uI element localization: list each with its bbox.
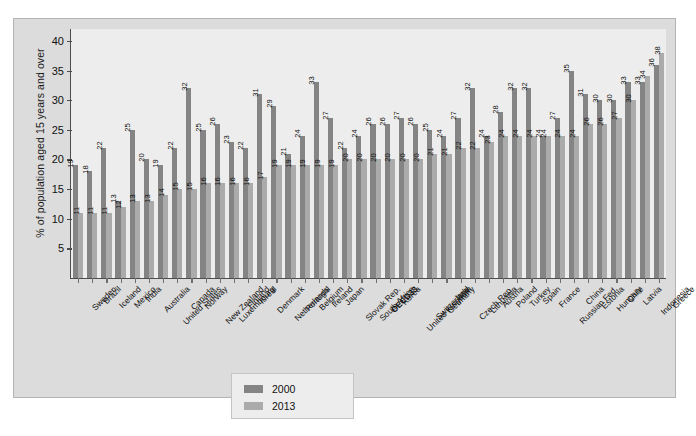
bar-group: 2215 — [170, 148, 184, 278]
bar-value-label: 19 — [328, 159, 336, 167]
bar-group: 1811 — [85, 171, 99, 278]
bar-value-label: 22 — [96, 141, 104, 149]
x-tick — [390, 278, 391, 283]
y-tick-label: 40 — [52, 35, 71, 47]
x-tick — [616, 278, 617, 283]
bar-group: 2616 — [213, 124, 227, 278]
legend-swatch-2013 — [244, 402, 263, 410]
x-tick — [560, 278, 561, 283]
bar-value-label: 30 — [626, 94, 634, 102]
bar-value-label: 19 — [271, 159, 279, 167]
bar-value-label: 13 — [144, 195, 152, 203]
bar-value-label: 25 — [422, 124, 430, 132]
bar-2013: 24 — [531, 136, 536, 278]
legend-item-2000: 2000 — [244, 380, 353, 397]
bar-group: 3027 — [609, 100, 623, 278]
bar-group: 1914 — [156, 165, 170, 278]
bar-group: 2423 — [482, 136, 496, 278]
bar-group: 2919 — [269, 106, 283, 278]
bar-value-label: 22 — [470, 141, 478, 149]
bar-value-label: 30 — [606, 94, 614, 102]
bar-value-label: 11 — [101, 207, 109, 215]
bar-group: 2516 — [199, 130, 213, 278]
bar-value-label: 33 — [620, 76, 628, 84]
bar-2013: 11 — [78, 213, 83, 278]
x-tick — [206, 278, 207, 283]
x-tick — [489, 278, 490, 283]
bar-value-label: 13 — [130, 195, 138, 203]
bar-group: 2013 — [142, 159, 156, 278]
y-tick-label: 10 — [52, 213, 71, 225]
bar-value-label: 31 — [578, 88, 586, 96]
x-tick — [333, 278, 334, 283]
bar-group: 3026 — [595, 100, 609, 278]
bar-2013: 26 — [602, 124, 607, 278]
bar-value-label: 36 — [649, 58, 657, 66]
bar-value-label: 27 — [550, 112, 558, 120]
y-tick-label: 35 — [52, 65, 71, 77]
x-axis-label: Latvia — [640, 284, 663, 307]
bar-value-label: 26 — [365, 118, 373, 126]
bar-2013: 22 — [461, 148, 466, 278]
bar-2013: 38 — [659, 53, 664, 278]
plot-area: 510152025303540 191118112211131225132013… — [70, 29, 666, 279]
x-tick — [531, 278, 532, 283]
bar-2013: 13 — [135, 201, 140, 278]
x-tick — [461, 278, 462, 283]
bar-group: 2824 — [496, 112, 510, 278]
bar-value-label: 19 — [300, 159, 308, 167]
bar-2013: 19 — [319, 165, 324, 278]
bar-group: 2720 — [397, 118, 411, 278]
bar-2013: 21 — [446, 154, 451, 279]
bar-value-label: 33 — [309, 76, 317, 84]
bar-2013: 15 — [177, 189, 182, 278]
bar-group: 2220 — [340, 148, 354, 278]
bar-2013: 21 — [432, 154, 437, 279]
x-tick — [588, 278, 589, 283]
bar-2013: 22 — [475, 148, 480, 278]
bar-group: 3215 — [184, 88, 198, 278]
bar-value-label: 20 — [371, 153, 379, 161]
bar-value-label: 15 — [186, 183, 194, 191]
x-tick — [404, 278, 405, 283]
bar-2013: 16 — [248, 183, 253, 278]
x-tick — [305, 278, 306, 283]
bar-2013: 19 — [291, 165, 296, 278]
x-tick — [177, 278, 178, 283]
bar-value-label: 14 — [158, 189, 166, 197]
x-tick — [475, 278, 476, 283]
bar-group: 2421 — [439, 136, 453, 278]
bar-value-label: 21 — [280, 147, 288, 155]
bar-value-label: 23 — [484, 135, 492, 143]
bar-value-label: 23 — [224, 135, 232, 143]
bar-group: 2216 — [241, 148, 255, 278]
bar-value-label: 22 — [337, 141, 345, 149]
y-tick-label: 25 — [52, 124, 71, 136]
bar-value-label: 25 — [125, 124, 133, 132]
bar-value-label: 24 — [569, 129, 577, 137]
bar-group: 2724 — [553, 118, 567, 278]
bar-value-label: 27 — [611, 112, 619, 120]
bar-2013: 19 — [305, 165, 310, 278]
bar-value-label: 19 — [286, 159, 294, 167]
chart-panel: % of population aged 15 years and over 5… — [13, 18, 676, 398]
bar-2013: 20 — [404, 159, 409, 278]
bar-2013: 19 — [333, 165, 338, 278]
bar-2013: 13 — [149, 201, 154, 278]
bar-group: 1312 — [114, 201, 128, 278]
legend-item-2013: 2013 — [244, 397, 353, 414]
bar-2013: 20 — [347, 159, 352, 278]
bar-2013: 17 — [262, 177, 267, 278]
bar-group: 3224 — [510, 88, 524, 278]
bar-value-label: 20 — [413, 153, 421, 161]
bar-2013: 23 — [489, 142, 494, 278]
bar-value-label: 32 — [181, 82, 189, 90]
bar-value-label: 11 — [73, 207, 81, 215]
bar-value-label: 22 — [456, 141, 464, 149]
bar-2013: 24 — [560, 136, 565, 278]
x-tick — [291, 278, 292, 283]
bar-2013: 20 — [418, 159, 423, 278]
x-tick — [645, 278, 646, 283]
x-tick — [78, 278, 79, 283]
